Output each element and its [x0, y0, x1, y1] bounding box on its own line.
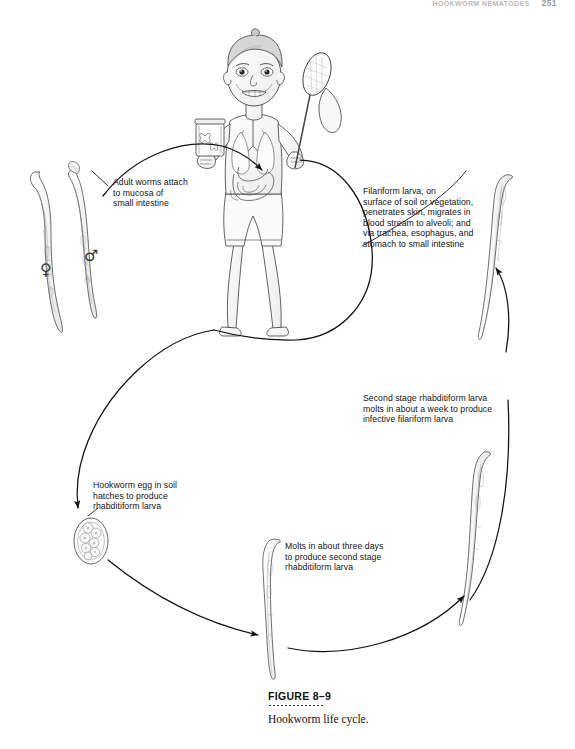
callout-molts-three-days: Molts in about three days to produce sec…	[285, 541, 383, 573]
adult-male-worm-illustration	[68, 161, 96, 318]
infective-filariform-larva-illustration	[459, 452, 490, 626]
arrow-rhabditiform-to-second-stage	[288, 596, 464, 651]
figure-caption-text: Hookworm life cycle.	[268, 713, 369, 725]
boy-illustration	[195, 29, 341, 336]
rhabditiform-larva-illustration	[263, 539, 281, 679]
male-worm-symbol: ♂	[84, 248, 98, 264]
female-worm-symbol: ♀	[40, 262, 52, 278]
arrow-to-filariform-larva	[496, 268, 509, 352]
hookworm-egg-illustration	[74, 518, 108, 564]
figure-caption-block: FIGURE 8–9 Hookworm life cycle.	[268, 690, 369, 725]
figure-page: HOOKWORM NEMATODES 251	[0, 0, 575, 749]
figure-rule-decoration	[268, 704, 324, 707]
figure-label: FIGURE 8–9	[268, 690, 369, 702]
callout-egg-hatches: Hookworm egg in soil hatches to produce …	[93, 480, 177, 512]
life-cycle-diagram	[0, 0, 575, 749]
filariform-larva-illustration	[478, 175, 512, 340]
leader-adult-worms	[92, 171, 108, 186]
adult-female-worm-illustration	[30, 172, 62, 332]
callout-adult-worms: Adult worms attach to mucosa of small in…	[113, 177, 188, 209]
arrow-egg-to-rhabditiform	[108, 560, 258, 635]
callout-second-stage: Second stage rhabditiform larva molts in…	[363, 393, 492, 425]
callout-filariform-larva: Filariform larva, on surface of soil or …	[363, 186, 474, 250]
